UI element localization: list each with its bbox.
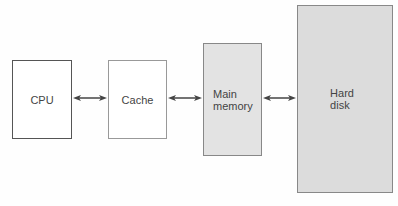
arrow-cpu-cache: [73, 95, 107, 101]
arrow-memory-disk: [263, 95, 296, 101]
arrow-cache-memory: [168, 95, 202, 101]
connector-arrows: [0, 0, 398, 206]
